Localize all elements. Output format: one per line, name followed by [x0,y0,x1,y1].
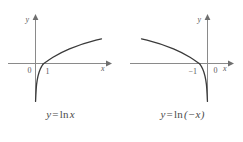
caption-function: ln [174,108,183,120]
y-axis-arrow-icon [205,14,211,20]
caption-function: ln [60,108,69,120]
x-axis-arrow-icon [106,61,112,67]
curve-ln-neg-x [142,39,208,102]
logarithm-graphs-figure: 0 1 x y y=ln x −1 0 x y [0,0,243,142]
caption-argument: x [70,108,75,120]
caption-lhs: y [160,108,165,120]
tick-label-minus-one: −1 [189,67,198,76]
tick-label-one: 1 [46,67,50,76]
x-axis-label: x [100,64,105,73]
x-axis-label: x [222,64,227,73]
plot-panel-ln-neg-x: −1 0 x y y=ln (−x) [122,0,243,142]
x-axis-arrow-icon [228,61,234,67]
y-axis-label: y [25,15,30,24]
tick-label-origin: 0 [28,66,32,75]
caption-equals: = [166,108,174,120]
caption-argument: (−x) [184,108,204,120]
caption-equals: = [51,108,59,120]
y-axis-arrow-icon [33,14,39,20]
caption-ln-x: y=ln x [0,108,121,120]
y-axis-label: y [197,15,202,24]
plot-panel-ln-x: 0 1 x y y=ln x [0,0,121,142]
tick-label-origin: 0 [214,66,218,75]
caption-ln-neg-x: y=ln (−x) [122,108,243,120]
plot-svg-ln-neg-x: −1 0 x y [122,0,243,105]
plot-svg-ln-x: 0 1 x y [0,0,121,105]
